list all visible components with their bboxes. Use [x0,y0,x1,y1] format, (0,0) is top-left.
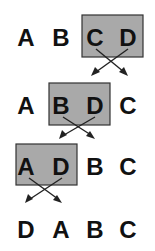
letter-a-row-3: A [17,153,34,180]
letter-c-row-3: C [119,153,136,180]
letter-c-row-4: C [119,216,136,243]
letter-d-row-1: D [119,24,136,51]
letter-a-row-1: A [17,24,34,51]
letter-d-row-3: D [52,153,69,180]
letter-c-row-1: C [86,24,103,51]
letter-a-row-2: A [17,92,34,119]
letter-b-row-3: B [86,153,103,180]
letter-b-row-1: B [52,24,69,51]
letter-a-row-4: A [52,216,69,243]
letter-c-row-2: C [119,92,136,119]
letter-d-row-2: D [86,92,103,119]
letter-b-row-2: B [52,92,69,119]
letter-d-row-4: D [17,216,34,243]
swap-diagram: ABCDABDCADBCDABC [0,0,155,251]
letter-b-row-4: B [86,216,103,243]
